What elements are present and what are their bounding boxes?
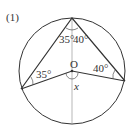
circle-angle-diagram — [0, 0, 133, 140]
right-angle-arc — [113, 70, 115, 79]
angle-label-right: 40° — [93, 63, 108, 74]
center-label: O — [70, 59, 78, 70]
center-point — [71, 70, 74, 73]
angle-label-left: 35° — [36, 69, 51, 80]
unknown-angle-label: x — [74, 81, 79, 92]
angle-label-top-right: 40° — [73, 34, 88, 45]
left-angle-arc — [31, 77, 33, 85]
